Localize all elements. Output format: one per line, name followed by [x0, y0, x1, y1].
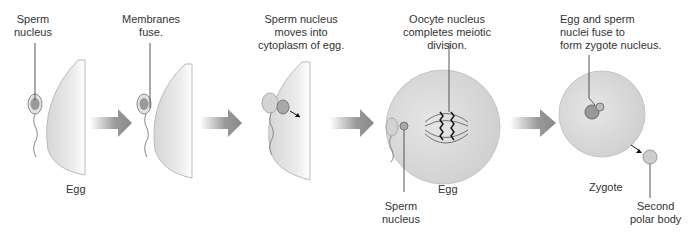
arrow-right-icon — [90, 109, 132, 137]
label-nuclei-fuse: Egg and spermnuclei fuse toform zygote n… — [560, 13, 662, 52]
stage-2 — [137, 43, 242, 178]
label-egg-1: Egg — [66, 183, 86, 196]
label-zygote: Zygote — [589, 181, 623, 194]
egg-half — [269, 62, 310, 180]
egg-half — [47, 60, 85, 175]
stage-5 — [559, 55, 657, 198]
label-membranes-fuse: Membranesfuse. — [122, 13, 180, 39]
sperm-tail — [34, 114, 38, 157]
sperm-head — [262, 93, 278, 113]
label-sperm-nucleus-2: Spermnucleus — [382, 200, 420, 226]
stage-4 — [386, 43, 556, 192]
label-oocyte-division: Oocyte nucleuscompletes meioticdivision. — [403, 13, 491, 52]
sperm-tail — [145, 114, 149, 157]
stage-1 — [28, 43, 132, 175]
sperm-nucleus — [596, 103, 604, 111]
second-polar-body — [643, 150, 657, 164]
label-egg-2: Egg — [438, 183, 458, 196]
label-sperm-nucleus-1: Spermnucleus — [14, 13, 52, 39]
egg-half — [154, 64, 192, 178]
stage-3 — [262, 62, 374, 180]
sperm-nucleus — [400, 122, 408, 130]
sperm-nucleus — [277, 100, 289, 114]
sperm-nucleus — [140, 98, 149, 110]
arrowhead-icon — [636, 149, 642, 153]
label-sperm-moves: Sperm nucleusmoves intocytoplasm of egg. — [258, 13, 344, 52]
arrow-right-icon — [330, 109, 374, 137]
sperm-head — [386, 118, 398, 136]
arrow-right-icon — [510, 109, 556, 137]
zygote-cell — [559, 71, 645, 157]
arrow-right-icon — [200, 109, 242, 137]
label-second-polar-body: Secondpolar body — [630, 200, 681, 226]
